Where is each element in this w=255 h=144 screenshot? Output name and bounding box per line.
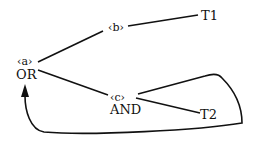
arrowhead-icon: [21, 84, 29, 97]
node-a-label: OR: [16, 68, 36, 82]
node-b-tag: ‹b›: [108, 21, 124, 35]
node-t2-label: T2: [200, 108, 217, 122]
edge-b-t1: [128, 15, 198, 26]
edge-a-b: [38, 31, 103, 62]
node-t1-label: T1: [201, 9, 218, 23]
edge-a-c: [38, 70, 108, 95]
node-c-label: AND: [110, 103, 141, 117]
edge-c-t2: [136, 98, 200, 113]
